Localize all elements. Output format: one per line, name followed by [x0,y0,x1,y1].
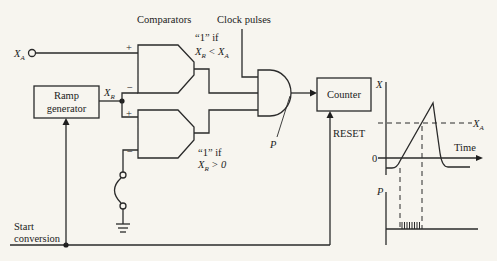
clock-pulse-train [402,222,420,229]
counter-label: Counter [327,89,361,100]
zero-label: 0 [372,153,377,164]
comp2-condition-line2: XR > 0 [197,159,227,173]
p-label: P [269,139,277,150]
comparator-2 [138,110,194,158]
start-conversion-label-line1: Start [14,221,34,232]
pulse-axis-label: P [376,186,384,197]
time-label: Time [454,142,476,153]
switch-terminal-top [120,172,126,178]
ramp-generator-label-line1: Ramp [54,90,79,101]
ground-icon [116,224,130,232]
comp1-minus-sign: − [127,82,133,93]
comp2-condition-line1: “1” if [198,147,222,158]
xr-label: XR [103,87,115,101]
ramp-start-arrow-icon [63,118,70,125]
ramp-generator-label-line2: generator [47,103,87,114]
x-timing-graph: X Time 0 XA [372,79,484,229]
comp1-condition-line1: “1” if [195,32,219,43]
reset-label: RESET [333,128,366,139]
p-timing-graph: P [376,186,478,245]
xa-input-label: XA [13,48,25,62]
graph-y-label: X [375,79,383,90]
ramp-adc-diagram: XA Comparators + − “1” if XR < XA + − “1… [0,0,497,261]
xa-threshold-label: XA [472,118,484,132]
start-conversion-label-line2: conversion [14,233,61,244]
switch-arc [115,178,122,203]
comparators-label: Comparators [137,14,191,25]
clock-pulses-label: Clock pulses [217,14,271,25]
comp2-minus-sign: − [127,146,133,157]
switch-terminal-bottom [120,203,126,209]
comp1-condition-line2: XR < XA [194,46,229,60]
comp1-output-wire [194,69,260,93]
reset-arrow-icon [327,111,334,118]
clock-wire [242,29,260,77]
time-axis-arrow-icon [476,155,483,161]
arrow-to-counter-icon [310,90,317,97]
comparator-1 [138,45,194,93]
comp1-plus-sign: + [126,42,132,53]
xa-input-terminal [29,50,36,57]
comp2-output-wire [194,110,260,133]
